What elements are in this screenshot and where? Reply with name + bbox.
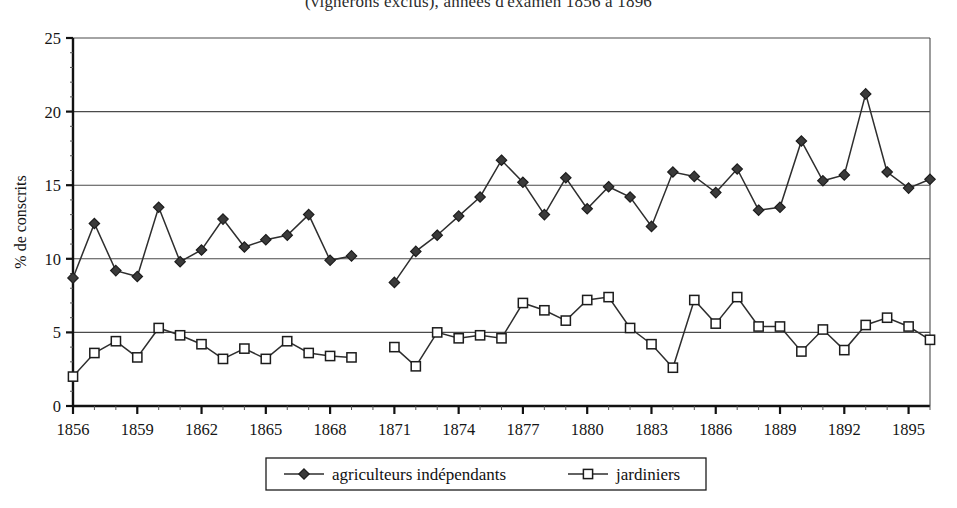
data-point-marker [647, 340, 656, 349]
x-axis-tick-label: 1889 [764, 420, 797, 439]
data-point-marker [711, 319, 720, 328]
data-point-marker [390, 343, 399, 352]
data-point-marker [818, 176, 828, 186]
data-point-marker [326, 351, 335, 360]
data-point-marker [218, 354, 227, 363]
data-point-marker [261, 235, 271, 245]
data-point-marker [154, 202, 164, 212]
data-point-marker [754, 322, 763, 331]
x-axis-tick-label: 1868 [314, 420, 347, 439]
data-point-marker [818, 325, 827, 334]
x-axis-tick-label: 1886 [699, 420, 732, 439]
x-axis-tick-label: 1892 [828, 420, 861, 439]
data-point-marker [861, 320, 870, 329]
data-point-marker [625, 192, 635, 202]
data-point-marker [133, 353, 142, 362]
data-point-marker [111, 337, 120, 346]
data-point-marker [389, 277, 399, 287]
data-point-marker [90, 348, 99, 357]
data-point-marker [154, 323, 163, 332]
data-point-marker [561, 173, 571, 183]
data-point-marker [111, 265, 121, 275]
data-point-marker [346, 251, 356, 261]
x-axis-tick-label: 1895 [892, 420, 925, 439]
data-point-marker [668, 167, 678, 177]
y-axis-title: % de conscrits [12, 175, 29, 268]
data-point-marker [539, 209, 550, 219]
data-point-marker [775, 202, 785, 212]
data-point-marker [304, 348, 313, 357]
x-axis-tick-label: 1874 [442, 420, 475, 439]
data-point-marker [283, 337, 292, 346]
y-axis-tick-label: 10 [45, 250, 62, 269]
legend-marker-1 [583, 469, 592, 478]
data-point-marker [796, 136, 806, 146]
data-point-marker [68, 273, 78, 283]
chart-container: (vignerons exclus), années d'examen 1856… [0, 0, 957, 508]
series-line-0 [394, 94, 930, 283]
data-point-marker [583, 295, 592, 304]
legend-label-0: agriculteurs indépendants [332, 465, 506, 484]
data-point-marker [347, 353, 356, 362]
x-axis-tick-label: 1862 [185, 420, 218, 439]
x-axis-tick-label: 1859 [121, 420, 154, 439]
data-point-marker [89, 218, 99, 228]
data-point-marker [797, 347, 806, 356]
data-point-marker [240, 344, 249, 353]
data-point-marker [433, 328, 442, 337]
x-axis-tick-label: 1871 [378, 420, 411, 439]
data-point-marker [733, 293, 742, 302]
x-axis-tick-label: 1877 [506, 420, 539, 439]
data-point-marker [68, 372, 77, 381]
data-point-marker [454, 334, 463, 343]
line-chart-svg: 0510152025185618591862186518681871187418… [0, 0, 957, 508]
data-point-marker [561, 316, 570, 325]
data-point-marker [861, 89, 871, 99]
data-point-marker [753, 205, 763, 215]
data-point-marker [196, 245, 206, 255]
data-point-marker [775, 322, 784, 331]
data-point-marker [626, 323, 635, 332]
data-point-marker [668, 363, 677, 372]
chart-title: (vignerons exclus), années d'examen 1856… [0, 0, 957, 12]
data-point-marker [261, 354, 270, 363]
data-point-marker [690, 295, 699, 304]
data-point-marker [839, 170, 849, 180]
data-point-marker [175, 257, 185, 267]
data-point-marker [476, 331, 485, 340]
data-point-marker [132, 271, 142, 281]
data-point-marker [411, 362, 420, 371]
data-point-marker [904, 322, 913, 331]
y-axis-tick-label: 15 [45, 176, 62, 195]
data-point-marker [925, 335, 934, 344]
x-axis-tick-label: 1880 [571, 420, 604, 439]
data-point-marker [176, 331, 185, 340]
y-axis-tick-label: 20 [45, 103, 62, 122]
data-point-marker [646, 221, 656, 231]
y-axis-tick-label: 0 [53, 397, 61, 416]
legend-label-1: jardiniers [615, 465, 680, 484]
y-axis-tick-label: 5 [53, 323, 61, 342]
data-point-marker [840, 346, 849, 355]
data-point-marker [925, 174, 935, 184]
x-axis-tick-label: 1883 [635, 420, 668, 439]
x-axis-tick-label: 1865 [249, 420, 282, 439]
data-point-marker [883, 313, 892, 322]
data-point-marker [604, 293, 613, 302]
y-axis-tick-label: 25 [45, 29, 62, 48]
data-point-marker [540, 306, 549, 315]
data-point-marker [497, 334, 506, 343]
data-point-marker [325, 255, 335, 265]
data-point-marker [197, 340, 206, 349]
x-axis-tick-label: 1856 [57, 420, 90, 439]
data-point-marker [518, 298, 527, 307]
